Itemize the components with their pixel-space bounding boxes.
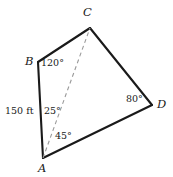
angle-label-cad: 45° <box>55 131 72 141</box>
edge-AB <box>38 62 43 158</box>
angle-label-bac: 25° <box>44 106 61 116</box>
side-label-ab: 150 ft <box>5 106 34 116</box>
vertex-label-D: D <box>157 99 166 111</box>
geometry-figure: A B C D 120° 25° 45° 80° 150 ft <box>0 0 173 177</box>
angle-label-b: 120° <box>41 58 64 68</box>
vertex-label-C: C <box>83 7 92 19</box>
diagram-canvas <box>0 0 173 177</box>
vertex-label-B: B <box>25 56 33 68</box>
angle-label-d: 80° <box>126 94 143 104</box>
vertex-label-A: A <box>38 163 46 175</box>
